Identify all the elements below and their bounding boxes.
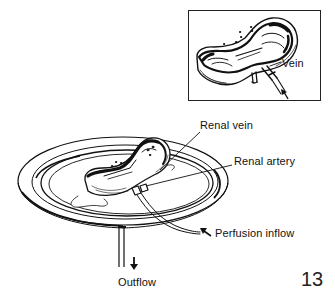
label-vein: Vein	[282, 57, 304, 69]
outflow-stand	[118, 226, 126, 267]
inset-kidney-illustration	[197, 18, 298, 94]
label-renal-vein: Renal vein	[200, 119, 253, 131]
label-perfusion-inflow: Perfusion inflow	[215, 227, 294, 239]
outflow-arrow-icon	[130, 257, 138, 270]
label-renal-artery: Renal artery	[234, 155, 295, 167]
page-number: 13	[301, 269, 323, 289]
perfusion-inflow-arrow-icon	[200, 228, 211, 236]
figure-canvas: Vein Renal vein Renal artery Perfusion i…	[0, 0, 335, 308]
label-outflow: Outflow	[118, 276, 156, 288]
diagram-svg	[0, 0, 335, 308]
